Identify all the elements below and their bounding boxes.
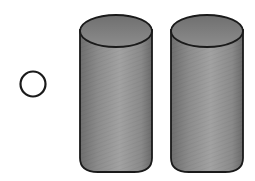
cylinder-2-top-cap <box>171 15 243 47</box>
figure-canvas <box>0 0 255 181</box>
cylinder-1-top-cap <box>80 15 152 47</box>
circle-marker <box>21 72 46 97</box>
cylinder-2 <box>171 15 243 172</box>
cylinder-1 <box>80 15 152 172</box>
